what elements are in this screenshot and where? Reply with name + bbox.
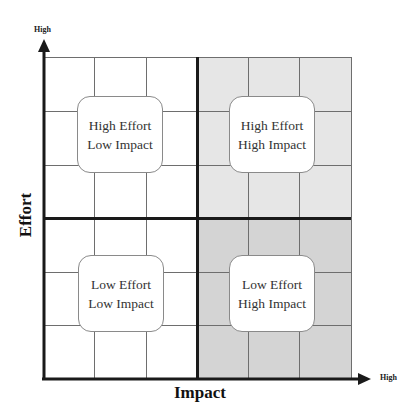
y-axis-title: Effort [16, 193, 36, 237]
x-axis-title: Impact [174, 383, 226, 403]
y-axis-high-label: High [34, 25, 51, 34]
y-axis-arrow-icon [38, 39, 50, 380]
x-axis-high-label: High [380, 373, 397, 382]
axes [0, 0, 420, 417]
